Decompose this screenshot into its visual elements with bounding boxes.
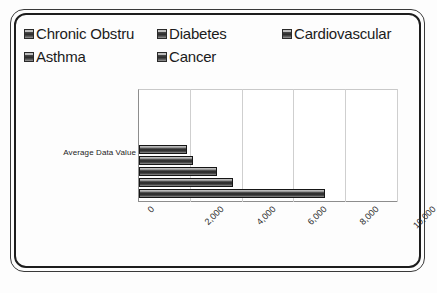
legend-item-chronic-obstru[interactable]: Chronic Obstru [24,26,157,41]
x-axis-tick-label: 4,000 [254,204,277,227]
square-swatch-icon [282,29,292,39]
chart-page: Chronic Obstru Diabetes Cardiovascular A… [0,0,437,293]
legend-item-label: Diabetes [169,26,227,41]
bar [139,167,217,176]
legend-item-asthma[interactable]: Asthma [24,49,157,64]
legend-item-label: Cancer [169,49,216,64]
legend-item-cardiovascular[interactable]: Cardiovascular [282,26,391,41]
legend-row: Chronic Obstru Diabetes Cardiovascular [24,26,414,49]
chart-legend: Chronic Obstru Diabetes Cardiovascular A… [24,26,414,72]
plot-area-wrapper [138,89,398,202]
square-swatch-icon [24,29,34,39]
x-axis-tick-labels: 02,0004,0006,0008,00010,000 [138,204,408,250]
category-axis-label: Average Data Value [42,148,136,157]
x-axis-tick-label: 8,000 [358,204,381,227]
bar [139,189,325,198]
bar [139,145,187,154]
square-swatch-icon [24,52,34,62]
legend-item-cancer[interactable]: Cancer [157,49,282,64]
legend-item-label: Chronic Obstru [36,26,134,41]
x-axis-tick-label: 2,000 [202,204,225,227]
legend-item-label: Asthma [36,49,86,64]
bar [139,178,233,187]
bar [139,156,193,165]
legend-row: Asthma Cancer [24,49,414,72]
square-swatch-icon [157,52,167,62]
x-axis-tick-label: 6,000 [306,204,329,227]
legend-item-label: Cardiovascular [294,26,391,41]
x-axis-tick-label: 0 [145,204,156,215]
square-swatch-icon [157,29,167,39]
legend-item-diabetes[interactable]: Diabetes [157,26,282,41]
bar-series-group [139,89,398,202]
